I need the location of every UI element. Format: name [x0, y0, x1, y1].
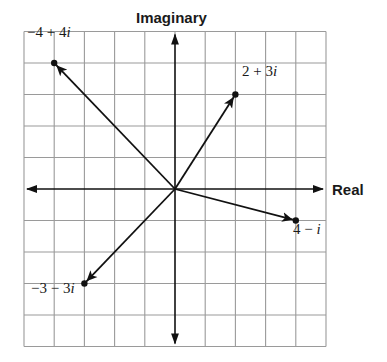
label-text: 4 −: [293, 221, 316, 237]
imaginary-unit: i: [316, 221, 320, 237]
vector-endpoint-dot: [81, 280, 87, 286]
imaginary-unit: i: [70, 280, 74, 296]
point-label-2-plus-3i: 2 + 3i: [242, 64, 277, 79]
label-text: −3 − 3: [31, 280, 70, 296]
label-text: 2 + 3: [242, 63, 273, 79]
point-label-neg4-plus-4i: −4 + 4i: [27, 25, 71, 40]
vector-endpoint-dot: [51, 60, 57, 66]
vector-endpoint-dot: [232, 91, 238, 97]
imaginary-unit: i: [273, 63, 277, 79]
point-label-4-minus-i: 4 − i: [293, 222, 321, 237]
label-text: −4 + 4: [27, 24, 66, 40]
vector-arrow: [56, 65, 175, 189]
imaginary-unit: i: [66, 24, 70, 40]
complex-plane-grid: [0, 0, 387, 362]
imaginary-axis-label: Imaginary: [136, 9, 207, 26]
complex-plane-diagram: Imaginary Real −4 + 4i 2 + 3i 4 − i −3 −…: [0, 0, 387, 362]
vector-arrow: [86, 189, 175, 281]
real-axis-label: Real: [332, 181, 364, 198]
vector-arrow: [175, 189, 293, 220]
point-label-neg3-minus-3i: −3 − 3i: [31, 281, 75, 296]
vector-arrow: [175, 97, 234, 189]
